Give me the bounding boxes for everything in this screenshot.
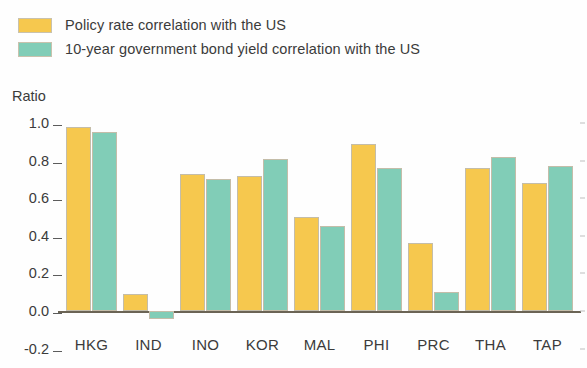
chart-legend: Policy rate correlation with the US 10-y… <box>18 14 420 62</box>
bar-kor-bond-yield <box>263 159 288 311</box>
bar-tha-policy-rate <box>465 168 490 311</box>
x-axis-label-tha: THA <box>462 336 519 353</box>
y-axis-tick-mark <box>53 200 62 201</box>
y-axis-tick-label: 0.8 <box>29 153 49 169</box>
bar-mal-bond-yield <box>320 226 345 311</box>
legend-item-policy: Policy rate correlation with the US <box>18 14 420 36</box>
x-axis-label-mal: MAL <box>291 336 348 353</box>
bar-hkg-bond-yield <box>92 132 117 311</box>
y-axis-title: Ratio <box>12 88 46 104</box>
y-axis-tick-labels: 1.00.80.60.40.20.0-0.2 <box>0 120 62 320</box>
bar-group-ind: IND <box>123 120 180 320</box>
bar-prc-policy-rate <box>408 243 433 311</box>
bar-group-tap: TAP <box>522 120 579 320</box>
x-axis-label-kor: KOR <box>234 336 291 353</box>
y-axis-tick-0neg4: 0.4 <box>29 228 62 244</box>
x-axis-label-ind: IND <box>120 336 177 353</box>
right-axis-tick-mark <box>580 348 585 349</box>
right-axis-tick-mark <box>580 235 585 236</box>
bar-ind-policy-rate <box>123 294 148 311</box>
y-axis-tick-mark <box>53 125 62 126</box>
y-axis-tick-mark <box>53 163 62 164</box>
bar-ino-policy-rate <box>180 174 205 311</box>
y-axis-tick-label: 1.0 <box>29 115 49 131</box>
y-axis-tick-label: -0.2 <box>24 341 49 357</box>
bar-group-kor: KOR <box>237 120 294 320</box>
y-axis-tick-label: 0.4 <box>29 228 49 244</box>
y-axis-tick-mark <box>53 238 62 239</box>
bar-tha-bond-yield <box>491 157 516 311</box>
plot-area: HKGINDINOKORMALPHIPRCTHATAP <box>64 120 581 320</box>
x-axis-label-ino: INO <box>177 336 234 353</box>
x-axis-label-tap: TAP <box>519 336 576 353</box>
y-axis-tick-0neg8: 0.8 <box>29 153 62 169</box>
bar-group-tha: THA <box>465 120 522 320</box>
right-axis-tick-mark <box>580 273 585 274</box>
bar-hkg-policy-rate <box>66 127 91 311</box>
bar-mal-policy-rate <box>294 217 319 311</box>
y-axis-tick-0neg2: 0.2 <box>29 265 62 281</box>
bar-group-ino: INO <box>180 120 237 320</box>
y-axis-tick-neg0-2: -0.2 <box>24 341 62 357</box>
bar-prc-bond-yield <box>434 292 459 311</box>
right-axis-tick-mark <box>580 311 585 312</box>
bar-group-hkg: HKG <box>66 120 123 320</box>
right-axis-tick-mark <box>580 198 585 199</box>
y-axis-tick-mark <box>53 313 62 314</box>
bar-ino-bond-yield <box>206 179 231 311</box>
bar-ind-bond-yield <box>149 311 174 319</box>
right-axis-tick-mark <box>580 123 585 124</box>
y-axis-tick-mark <box>53 351 62 352</box>
right-axis-tick-mark <box>580 160 585 161</box>
y-axis-tick-label: 0.2 <box>29 265 49 281</box>
legend-label-bond: 10-year government bond yield correlatio… <box>65 41 420 57</box>
y-axis-tick-label: 0.6 <box>29 190 49 206</box>
bar-chart-figure: Policy rate correlation with the US 10-y… <box>0 0 587 368</box>
bar-group-prc: PRC <box>408 120 465 320</box>
legend-label-policy: Policy rate correlation with the US <box>65 17 286 33</box>
y-axis-tick-label: 0.0 <box>29 303 49 319</box>
bar-tap-bond-yield <box>548 166 573 311</box>
x-axis-label-hkg: HKG <box>63 336 120 353</box>
bar-phi-policy-rate <box>351 144 376 311</box>
legend-swatch-bond <box>18 42 52 57</box>
legend-item-bond: 10-year government bond yield correlatio… <box>18 38 420 60</box>
bar-phi-bond-yield <box>377 168 402 311</box>
bar-kor-policy-rate <box>237 176 262 311</box>
y-axis-tick-mark <box>53 275 62 276</box>
x-axis-label-phi: PHI <box>348 336 405 353</box>
x-axis-label-prc: PRC <box>405 336 462 353</box>
bar-tap-policy-rate <box>522 183 547 311</box>
bar-group-mal: MAL <box>294 120 351 320</box>
legend-swatch-policy <box>18 18 52 33</box>
y-axis-tick-0neg6: 0.6 <box>29 190 62 206</box>
y-axis-tick-1: 1.0 <box>29 115 62 131</box>
bar-group-phi: PHI <box>351 120 408 320</box>
